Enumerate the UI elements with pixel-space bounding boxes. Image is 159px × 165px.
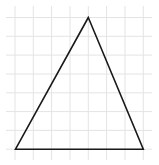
triangle-grid-figure	[0, 0, 159, 165]
grid-lines	[6, 6, 152, 160]
triangle-shape	[16, 18, 144, 150]
diagram-canvas	[0, 0, 159, 165]
